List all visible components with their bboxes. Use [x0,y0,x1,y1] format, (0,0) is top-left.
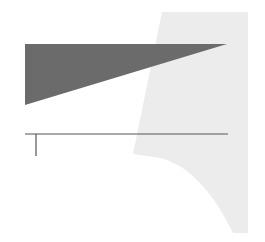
diagram-canvas [0,0,265,242]
diagram-svg [0,0,265,242]
